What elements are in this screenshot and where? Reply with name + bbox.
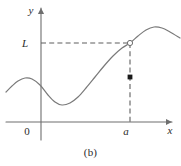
graph-canvas: y x 0 L a (0, 0, 181, 166)
figure-caption: (b) (0, 146, 181, 158)
origin-label: 0 (24, 125, 30, 137)
x-point-label: a (123, 125, 129, 137)
function-curve (6, 27, 180, 105)
open-circle-marker (127, 40, 132, 45)
closed-dot-marker (128, 75, 133, 80)
x-axis-label: x (167, 124, 173, 136)
figure-container: y x 0 L a (b) (0, 0, 181, 166)
y-axis-arrow-icon (38, 8, 44, 14)
limit-value-label: L (21, 37, 28, 49)
y-axis-label: y (28, 4, 34, 16)
